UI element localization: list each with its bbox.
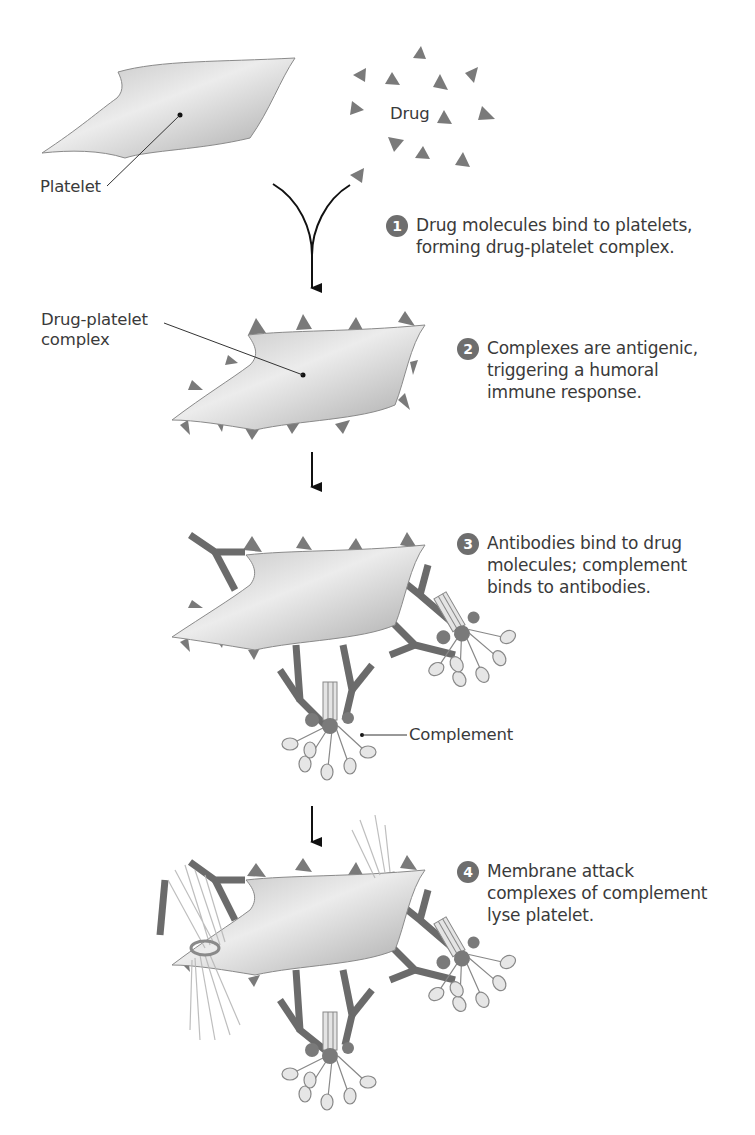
step-description: Membrane attack complexes of complement … xyxy=(487,860,707,926)
step-4: 4 Membrane attack complexes of complemen… xyxy=(457,860,707,926)
drug-platelet-complex-illustration xyxy=(164,311,425,440)
step-number-badge: 4 xyxy=(457,861,479,883)
step-number-badge: 2 xyxy=(457,338,479,360)
platelet-illustration xyxy=(42,58,295,186)
merge-arrow xyxy=(273,184,350,288)
step-description: Drug molecules bind to platelets, formin… xyxy=(416,214,692,258)
complement-label: Complement xyxy=(409,725,513,745)
platelet-label: Platelet xyxy=(40,177,101,197)
step-description: Complexes are antigenic, triggering a hu… xyxy=(487,337,698,403)
step-description: Antibodies bind to drug molecules; compl… xyxy=(487,532,687,598)
drug-label: Drug xyxy=(390,104,430,124)
step-number-badge: 3 xyxy=(457,533,479,555)
step-number-badge: 1 xyxy=(386,215,408,237)
step-2: 2 Complexes are antigenic, triggering a … xyxy=(457,337,698,403)
step-3: 3 Antibodies bind to drug molecules; com… xyxy=(457,532,687,598)
drug-platelet-complex-label: Drug-platelet complex xyxy=(41,310,148,350)
step-1: 1 Drug molecules bind to platelets, form… xyxy=(386,214,692,258)
